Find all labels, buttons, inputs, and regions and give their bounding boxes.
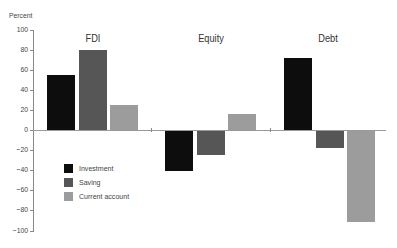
category-label-fdi: FDI [58,32,128,44]
y-tick-label: 40 [6,85,28,94]
y-tick-label: −60 [6,185,28,194]
legend-item-saving: Saving [64,177,103,187]
y-tick [30,110,34,111]
bar-chart: Percent 100806040200−20−40−60−80−100 FDI… [0,0,397,248]
bar-fdi-saving [79,50,107,130]
legend-swatch [64,178,73,187]
y-tick [30,190,34,191]
y-tick-label: 20 [6,105,28,114]
y-tick-label: 60 [6,65,28,74]
legend-label: Investment [79,164,113,173]
bar-fdi-current-account [110,105,138,130]
category-label-debt: Debt [293,32,363,44]
y-tick-label: −20 [6,145,28,154]
bar-debt-current-account [347,131,375,222]
legend-item-current-account: Current account [64,191,136,201]
bar-debt-saving [316,131,344,148]
y-tick-label: 100 [6,25,28,34]
legend-label: Saving [79,178,101,187]
bar-equity-investment [165,131,193,171]
legend-swatch [64,164,73,173]
bar-debt-investment [284,58,312,130]
category-divider-tick [270,128,271,132]
category-label-equity: Equity [176,32,246,44]
bar-equity-current-account [228,114,256,130]
category-divider-tick [151,128,152,132]
y-tick-label: 0 [6,125,28,134]
y-tick [30,150,34,151]
bar-fdi-investment [47,75,75,130]
legend-label: Current account [79,192,129,201]
legend-swatch [64,192,73,201]
legend-item-investment: Investment [64,163,118,173]
y-tick [30,210,34,211]
y-tick [30,30,34,31]
y-axis-title: Percent [9,11,32,20]
y-tick [30,170,34,171]
y-tick [30,70,34,71]
y-tick-label: −40 [6,165,28,174]
bar-equity-saving [197,131,225,155]
y-tick-label: −100 [6,226,28,235]
y-tick [30,90,34,91]
y-tick-label: −80 [6,205,28,214]
y-tick [30,231,34,232]
y-tick [30,50,34,51]
y-tick-label: 80 [6,45,28,54]
